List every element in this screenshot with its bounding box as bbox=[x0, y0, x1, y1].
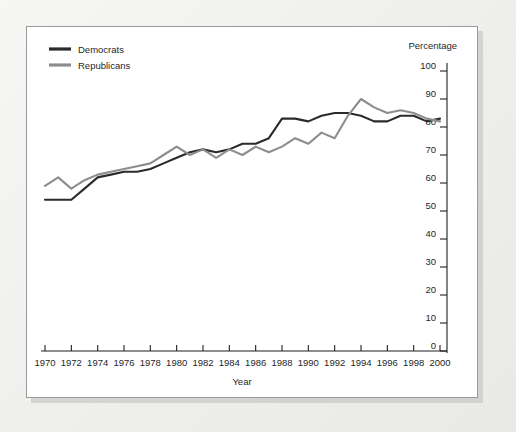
y-axis-tick-label: 100 bbox=[420, 60, 436, 71]
x-axis-tick-label: 1990 bbox=[298, 357, 319, 368]
x-axis-tick-label: 1994 bbox=[350, 357, 371, 368]
y-axis-tick-label: 60 bbox=[425, 172, 436, 183]
x-axis-tick-label: 1980 bbox=[166, 357, 187, 368]
y-axis-tick-label: 20 bbox=[425, 284, 436, 295]
y-axis: 0102030405060708090100 bbox=[420, 60, 447, 354]
legend-label-republicans: Republicans bbox=[78, 60, 131, 71]
y-axis-tick-label: 40 bbox=[425, 228, 436, 239]
x-axis-tick-label: 1982 bbox=[192, 357, 213, 368]
y-axis-tick-label: 0 bbox=[431, 340, 436, 351]
x-axis-title: Year bbox=[232, 376, 251, 387]
chart-legend: Democrats Republicans bbox=[49, 44, 131, 71]
x-axis-tick-label: 1996 bbox=[377, 357, 398, 368]
x-axis-tick-label: 1970 bbox=[34, 357, 55, 368]
y-axis-unit-label: Percentage bbox=[408, 40, 457, 51]
y-axis-tick-label: 70 bbox=[425, 144, 436, 155]
figure-root: Democrats Republicans Percentage 0102030… bbox=[0, 0, 516, 432]
y-axis-tick-label: 90 bbox=[425, 88, 436, 99]
x-axis-tick-label: 1978 bbox=[140, 357, 161, 368]
chart-card: Democrats Republicans Percentage 0102030… bbox=[26, 26, 478, 398]
legend-label-democrats: Democrats bbox=[78, 44, 124, 55]
series-line-democrats bbox=[45, 113, 440, 200]
chart-series bbox=[45, 99, 440, 200]
x-axis-tick-label: 1992 bbox=[324, 357, 345, 368]
x-axis-tick-label: 1972 bbox=[61, 357, 82, 368]
x-axis: 1970197219741976197819801982198419861988… bbox=[34, 345, 450, 368]
y-axis-tick-label: 30 bbox=[425, 256, 436, 267]
y-axis-tick-label: 10 bbox=[425, 312, 436, 323]
x-axis-tick-label: 1988 bbox=[271, 357, 292, 368]
x-axis-tick-label: 1986 bbox=[245, 357, 266, 368]
x-axis-tick-label: 1976 bbox=[113, 357, 134, 368]
x-axis-tick-label: 1974 bbox=[87, 357, 108, 368]
x-axis-tick-label: 1998 bbox=[403, 357, 424, 368]
line-chart: Democrats Republicans Percentage 0102030… bbox=[27, 27, 477, 397]
y-axis-tick-label: 50 bbox=[425, 200, 436, 211]
x-axis-tick-label: 1984 bbox=[219, 357, 240, 368]
x-axis-tick-label: 2000 bbox=[429, 357, 450, 368]
